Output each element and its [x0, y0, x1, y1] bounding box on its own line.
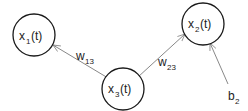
node-x2-arg: (t)	[200, 17, 211, 31]
label-b2-var: b	[228, 89, 235, 103]
node-x1-var: x	[19, 29, 25, 43]
node-x3-arg: (t)	[120, 82, 131, 96]
node-x1-arg: (t)	[31, 29, 42, 43]
label-w23-sub: 23	[167, 63, 176, 72]
edge-b2	[210, 43, 228, 84]
label-w23-var: w	[157, 55, 167, 69]
label-w13: w 13	[75, 49, 94, 66]
node-x2: x 2 (t)	[182, 3, 224, 45]
node-x3-var: x	[108, 82, 114, 96]
node-x1: x 1 (t)	[13, 14, 55, 56]
node-x2-var: x	[188, 17, 194, 31]
node-x3: x 3 (t)	[102, 68, 144, 110]
label-w13-sub: 13	[85, 57, 94, 66]
label-b2-sub: 2	[235, 97, 240, 106]
label-w13-var: w	[75, 49, 85, 63]
network-diagram: x 1 (t) x 2 (t) x 3 (t) w 13 w 23 b 2	[0, 0, 248, 111]
label-w23: w 23	[157, 55, 176, 72]
label-b2: b 2	[228, 89, 240, 106]
